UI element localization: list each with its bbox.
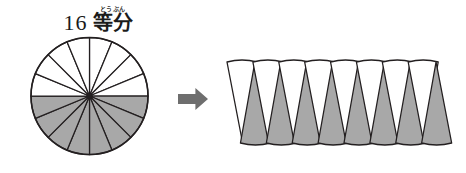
- rearranged-sector-strip: [227, 60, 452, 145]
- pie-center-dot: [87, 93, 92, 98]
- arrow-right-glyph: [178, 88, 208, 110]
- figure-canvas: 16 とうぶん 等分: [0, 0, 466, 173]
- arrow-right-icon: [178, 88, 208, 110]
- pie-chart-16-sectors: [31, 38, 148, 155]
- figure-artwork: [0, 0, 466, 173]
